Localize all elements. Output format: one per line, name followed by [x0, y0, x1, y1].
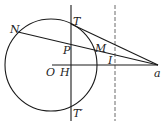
label-a: a: [154, 67, 161, 80]
geometry-diagram: N T P M O H I a T′: [0, 0, 167, 134]
label-T-prime: T′: [73, 107, 83, 120]
label-I: I: [107, 54, 113, 67]
label-N: N: [9, 23, 20, 36]
label-T: T: [73, 15, 82, 28]
label-P: P: [62, 44, 71, 57]
label-M: M: [94, 42, 107, 55]
label-O: O: [46, 66, 55, 79]
label-H: H: [59, 66, 70, 79]
tangent-Ta: [71, 24, 158, 65]
